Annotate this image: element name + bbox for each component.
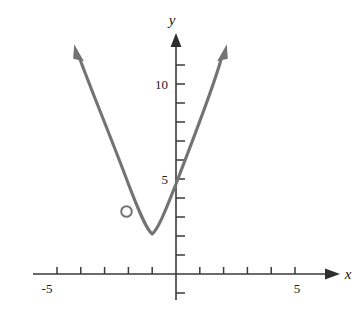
y-tick-label-5: 5 — [162, 172, 169, 187]
x-tick-label-5: 5 — [294, 281, 301, 296]
curve-left-arrowhead — [73, 44, 84, 62]
x-axis-arrowhead — [325, 269, 340, 280]
curve-right-arrowhead — [217, 44, 228, 62]
x-axis-label: x — [344, 266, 352, 282]
x-tick-label--5: -5 — [42, 281, 53, 296]
y-axis-group: 5 10 y — [155, 12, 185, 300]
parabola-path — [80, 58, 222, 234]
x-axis-group: -5 5 x — [33, 266, 352, 296]
y-axis-arrowhead — [171, 33, 182, 47]
coordinate-plane-svg: -5 5 x 5 10 y — [0, 0, 359, 317]
graph-figure: -5 5 x 5 10 y — [0, 0, 359, 317]
open-circle-point — [121, 206, 132, 217]
y-tick-label-10: 10 — [155, 77, 168, 92]
y-axis-label: y — [167, 12, 176, 28]
parabola-curve-group — [73, 44, 229, 234]
